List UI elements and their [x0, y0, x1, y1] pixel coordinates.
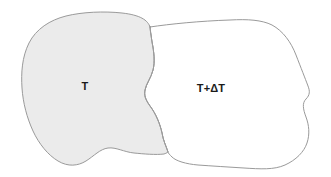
right-region-label: T+ΔT — [197, 82, 226, 94]
blob-diagram-svg — [0, 0, 331, 177]
diagram-canvas: T T+ΔT — [0, 0, 331, 177]
left-region-label: T — [82, 80, 89, 92]
right-region-shape — [145, 20, 310, 169]
